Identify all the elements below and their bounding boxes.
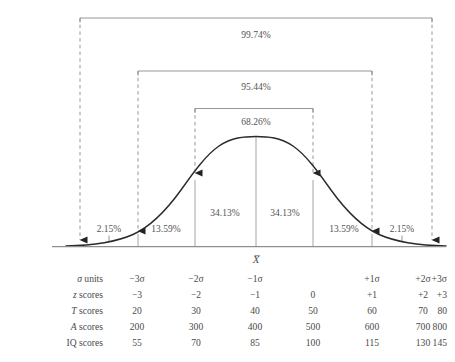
cell-a-scores-5: 700	[416, 321, 431, 332]
cell-t-scores-3: 50	[308, 305, 318, 316]
cell-iq-scores-5: 130	[416, 337, 431, 348]
segment-label-mean-plus1: 34.13%	[270, 208, 299, 218]
cell-a-scores-0: 200	[130, 321, 145, 332]
row-label-rest: scores	[77, 305, 104, 316]
cell-iq-scores-4: 115	[365, 337, 379, 348]
row-label-rest: scores	[77, 289, 104, 300]
cell-sigma-units-2: −1σ	[247, 273, 263, 284]
cell-t-scores-5: 70	[418, 305, 428, 316]
cell-z-scores-4: +1	[367, 289, 377, 300]
cell-z-scores-1: −2	[191, 289, 201, 300]
table-row: σ units −3σ −2σ −1σ +1σ +2σ +3σ	[77, 273, 448, 284]
normal-distribution-figure: 99.74% 95.44% 68.26%	[0, 0, 455, 362]
row-label-sigma-units: σ units	[77, 273, 103, 284]
cell-sigma-units-4: +1σ	[364, 273, 380, 284]
cell-a-scores-6: 800	[433, 321, 448, 332]
row-label-iq-scores: IQ scores	[67, 337, 104, 348]
segment-label-minus2-minus1: 13.59%	[151, 224, 180, 234]
cell-iq-scores-1: 70	[191, 337, 201, 348]
segment-label-plus1-plus2: 13.59%	[329, 224, 358, 234]
row-label-rest: units	[82, 273, 103, 284]
segment-label-plus2-plus3: 2.15%	[390, 224, 415, 234]
row-label-rest: scores	[77, 321, 104, 332]
segment-label-minus3-minus2: 2.15%	[97, 224, 122, 234]
bracket-95-44: 95.44%	[138, 71, 372, 92]
cell-t-scores-6: 80	[437, 305, 447, 316]
cell-iq-scores-3: 100	[306, 337, 321, 348]
table-row: T scores 20 30 40 50 60 70 80	[71, 305, 447, 316]
cell-sigma-units-0: −3σ	[129, 273, 145, 284]
cell-z-scores-0: −3	[132, 289, 142, 300]
row-label-t-scores: T scores	[71, 305, 103, 316]
cell-sigma-units-6: +3σ	[432, 273, 448, 284]
cell-t-scores-1: 30	[191, 305, 201, 316]
cell-t-scores-2: 40	[250, 305, 260, 316]
cell-z-scores-5: +2	[418, 289, 428, 300]
cell-t-scores-0: 20	[132, 305, 142, 316]
cell-a-scores-4: 600	[365, 321, 380, 332]
row-label-rest: scores	[77, 337, 104, 348]
scale-table: σ units −3σ −2σ −1σ +1σ +2σ +3σ z scores…	[67, 273, 448, 348]
cell-sigma-units-1: −2σ	[188, 273, 204, 284]
cell-iq-scores-0: 55	[132, 337, 142, 348]
cell-z-scores-3: 0	[311, 289, 316, 300]
cell-a-scores-3: 500	[306, 321, 321, 332]
table-row: z scores −3 −2 −1 0 +1 +2 +3	[72, 289, 447, 300]
table-row: A scores 200 300 400 500 600 700 800	[70, 321, 447, 332]
cell-z-scores-6: +3	[437, 289, 447, 300]
cell-z-scores-2: −1	[250, 289, 260, 300]
table-row: IQ scores 55 70 85 100 115 130 145	[67, 337, 448, 348]
bracket-68-26: 68.26%	[195, 109, 313, 128]
cell-sigma-units-5: +2σ	[415, 273, 431, 284]
cell-a-scores-2: 400	[248, 321, 263, 332]
figure-page: 99.74% 95.44% 68.26%	[0, 0, 455, 362]
cell-t-scores-4: 60	[367, 305, 377, 316]
cell-iq-scores-2: 85	[250, 337, 260, 348]
bracket-label-99-74: 99.74%	[241, 30, 270, 40]
bracket-label-95-44: 95.44%	[241, 82, 270, 92]
mean-symbol: X̅	[252, 253, 261, 265]
cell-iq-scores-6: 145	[433, 337, 448, 348]
row-label-z-scores: z scores	[72, 289, 103, 300]
row-label-a-scores: A scores	[70, 321, 104, 332]
cell-a-scores-1: 300	[189, 321, 204, 332]
bracket-label-68-26: 68.26%	[241, 117, 270, 127]
row-label-symbol: IQ	[67, 337, 77, 348]
segment-percent-labels: 2.15% 13.59% 34.13% 34.13% 13.59% 2.15%	[97, 208, 415, 241]
segment-label-minus1-mean: 34.13%	[210, 208, 239, 218]
bracket-99-74: 99.74%	[80, 18, 432, 40]
